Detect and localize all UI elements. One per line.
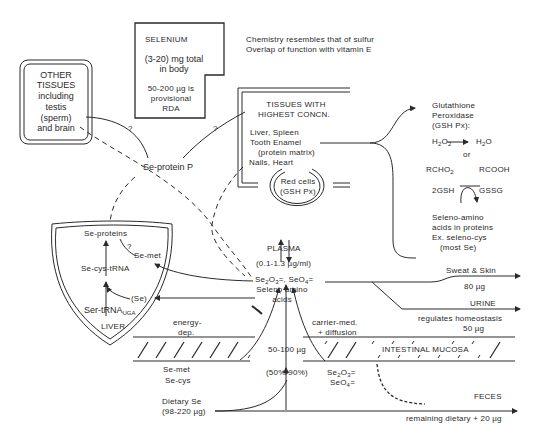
- gsh-label: 2GSH: [432, 186, 455, 195]
- dietary-se-line1: Dietary Se: [162, 397, 201, 406]
- energy-dep-line1: energy-: [173, 318, 202, 327]
- seleno-line2: acids in proteins: [432, 223, 493, 232]
- note-vitamin-e: Overlap of function with vitamin E: [246, 45, 372, 54]
- other-tissues-line5: (sperm): [26, 113, 86, 123]
- rcho2-formula: RCHO2: [426, 165, 454, 174]
- gshpx-line3: (GSH Px):: [432, 121, 470, 130]
- liver-se: (Se): [131, 294, 147, 303]
- urine-label: URINE: [470, 299, 496, 308]
- plasma-species-line1: Se2O3=, SeO4=: [255, 275, 313, 284]
- seleno-line1: Seleno-amino: [432, 213, 484, 222]
- other-tissues-line1: OTHER: [26, 70, 86, 80]
- absorption-se-met: Se-met: [163, 365, 190, 374]
- plasma-concentration: (0.1-1.3 µg/ml): [256, 259, 311, 268]
- dietary-se-line2: (98-220 µg): [162, 407, 206, 416]
- high-tissues-item1: Liver, Spleen: [250, 128, 299, 137]
- or-label: or: [463, 150, 471, 159]
- red-cells-gshpx: (GSH Px): [276, 187, 320, 196]
- mucosa-se2o3: Se2O3=: [327, 368, 356, 377]
- absorption-se-cys: Se-cys: [165, 376, 191, 385]
- se-protein-p-label: Se-protein P: [143, 162, 193, 172]
- liver-label: LIVER: [101, 322, 125, 331]
- urine-note: regulates homeostasis: [418, 314, 502, 323]
- sweat-skin-label: Sweat & Skin: [446, 266, 496, 275]
- plasma-species-line2: Seleno amino: [252, 285, 312, 294]
- energy-dep-line2: dep.: [178, 328, 194, 337]
- sweat-skin-amount: 80 µg: [464, 282, 485, 291]
- note-sulfur: Chemistry resembles that of sulfur: [246, 35, 374, 44]
- liver-ser-trna: Ser-tRNAUGA: [84, 305, 136, 315]
- high-tissues-item4: Nails, Heart: [249, 158, 293, 167]
- gshpx-line1: Glutathione: [432, 101, 475, 110]
- plasma-label: PLASMA: [267, 244, 301, 253]
- selenium-rda-line3: RDA: [140, 104, 202, 113]
- liver-se-cys-trna: Se-cys-tRNA: [81, 264, 129, 273]
- gshpx-line2: Peroxidase: [432, 111, 474, 120]
- question-mark-2: ?: [213, 124, 218, 133]
- liver-se-proteins: Se-proteins: [84, 229, 127, 238]
- high-tissues-item2: Tooth Enamel: [250, 138, 301, 147]
- other-tissues-line4: testis: [26, 102, 86, 112]
- high-tissues-title2: HIGHEST CONCN.: [248, 110, 340, 119]
- high-tissues-item3: (protein matrix): [258, 148, 315, 157]
- h2o2-formula: H2O2: [432, 137, 452, 146]
- seleno-line3: Ex. seleno-cys: [432, 233, 487, 242]
- h2o-formula: H2O: [476, 137, 492, 146]
- carrier-med-line1: carrier-med.: [312, 318, 358, 327]
- other-tissues-line6: and brain: [26, 123, 86, 133]
- feces-label: FECES: [474, 392, 502, 401]
- gssg-label: GSSG: [479, 186, 503, 195]
- mucosa-seo4: SeO4=: [330, 378, 355, 387]
- red-cells-label: Red cells: [276, 177, 320, 186]
- selenium-rda-line1: 50-200 µg is: [140, 84, 202, 93]
- urine-amount: 50 µg: [463, 324, 484, 333]
- other-tissues-line2: TISSUES: [26, 80, 86, 90]
- intestinal-mucosa-label: INTESTINAL MUCOSA: [382, 345, 469, 354]
- high-tissues-title1: TISSUES WITH: [252, 100, 340, 109]
- selenium-total-line1: (3-20) mg total: [140, 54, 208, 64]
- liver-question-mark: ?: [127, 242, 132, 251]
- selenium-total-line2: in body: [140, 64, 208, 74]
- absorbed-percent: (50%-90%): [266, 368, 308, 377]
- liver-se-met: Se-met: [134, 251, 161, 260]
- feces-note: remaining dietary + 20 µg: [406, 414, 502, 423]
- seleno-line4: (most Se): [440, 243, 476, 252]
- rcooh-formula: RCOOH: [479, 165, 510, 174]
- plasma-species-line3: acids: [252, 295, 312, 304]
- selenium-rda-line2: provisional: [140, 94, 202, 103]
- other-tissues-line3: including: [26, 91, 86, 101]
- absorbed-amount: 50-100 µg: [268, 345, 306, 354]
- selenium-title: SELENIUM: [145, 35, 188, 44]
- question-mark-1: ?: [128, 124, 133, 133]
- carrier-med-line2: + diffusion: [318, 328, 357, 337]
